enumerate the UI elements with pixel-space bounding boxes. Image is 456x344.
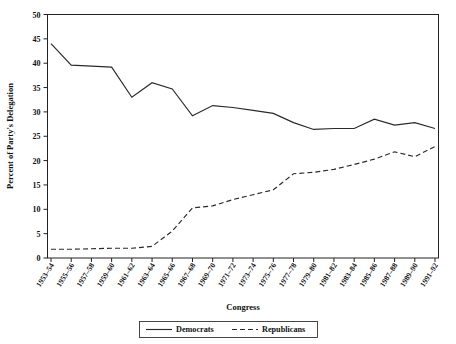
x-axis-tick-label: 1961–62 [115, 261, 137, 288]
x-axis-tick-label: 1983–84 [337, 261, 359, 288]
chart-legend: Democrats Republicans [140, 322, 318, 338]
x-axis-title: Congress [226, 302, 260, 312]
y-axis-tick-label: 20 [33, 157, 41, 166]
y-axis-tick-label: 45 [33, 35, 41, 44]
x-axis-tick-label: 1973–74 [236, 261, 258, 288]
legend-label-democrats: Democrats [176, 325, 214, 334]
x-axis-tick-label: 1967–68 [176, 261, 198, 288]
x-axis-tick-label: 1987–88 [378, 261, 400, 288]
x-axis-tick-label: 1965–66 [155, 261, 177, 288]
x-axis-tick-label: 1981–82 [317, 261, 339, 288]
x-axis-tick-label: 1959–60 [95, 261, 117, 288]
series-line-republicans [51, 146, 435, 249]
x-axis-tick-label: 1979–80 [297, 261, 319, 288]
x-axis-tick-label: 1953–54 [34, 261, 56, 288]
y-axis-tick-label: 0 [37, 254, 41, 263]
x-axis-tick-label: 1963–64 [135, 261, 157, 288]
y-axis-tick-label: 50 [33, 11, 41, 20]
x-axis-tick-label: 1989–90 [398, 261, 420, 288]
x-axis-tick-label: 1975–76 [256, 261, 278, 288]
y-axis-tick-label: 5 [37, 230, 41, 239]
series-line-democrats [51, 44, 435, 130]
y-axis-tick-label: 40 [33, 59, 41, 68]
y-axis: 05101520253035404550 [33, 11, 48, 264]
x-axis: 1953–541955–561957–581959–601961–621963–… [34, 258, 440, 289]
x-axis-tick-label: 1971–72 [216, 261, 238, 288]
line-chart: 05101520253035404550 1953–541955–561957–… [0, 0, 456, 344]
x-axis-tick-label: 1977–78 [277, 261, 299, 288]
x-axis-tick-label: 1985–86 [358, 261, 380, 288]
y-axis-tick-label: 10 [33, 205, 41, 214]
chart-figure: 05101520253035404550 1953–541955–561957–… [0, 0, 456, 344]
y-axis-tick-label: 30 [33, 108, 41, 117]
y-axis-title: Percent of Party's Delegation [5, 83, 15, 189]
x-axis-tick-label: 1969–70 [196, 261, 218, 288]
y-axis-tick-label: 25 [33, 132, 41, 141]
plot-frame [48, 15, 439, 259]
x-axis-tick-label: 1991–92 [418, 261, 440, 288]
plot-area-border [48, 15, 439, 259]
y-axis-tick-label: 15 [33, 181, 41, 190]
legend-label-republicans: Republicans [262, 325, 305, 334]
x-axis-tick-label: 1955–56 [54, 261, 76, 288]
x-axis-tick-label: 1957–58 [75, 261, 97, 288]
y-axis-tick-label: 35 [33, 84, 41, 93]
